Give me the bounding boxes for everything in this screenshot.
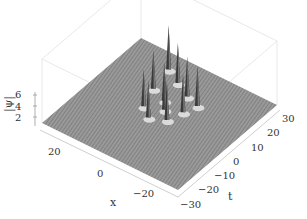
- t-tick-5: −20: [198, 184, 219, 195]
- z-tick-1: 4: [15, 101, 21, 112]
- x-tick-1: 0: [97, 168, 103, 179]
- t-tick-4: −10: [214, 170, 235, 181]
- x-tick-0: 20: [48, 146, 61, 157]
- t-axis-label: t: [228, 190, 233, 203]
- z-tick-0: 6: [15, 89, 21, 100]
- box-edge: [42, 0, 141, 59]
- t-tick-2: 10: [251, 142, 264, 153]
- surface-plot: 20 0 −20 x 30 20 10 0 −10 −20 −30 t 6 4 …: [0, 0, 307, 219]
- t-tick-1: 20: [267, 127, 280, 138]
- x-axis-label: x: [110, 196, 117, 209]
- z-tick-2: 2: [15, 112, 21, 123]
- t-tick-0: 30: [282, 113, 295, 124]
- t-tick-3: 0: [233, 156, 239, 167]
- surface-base: [42, 38, 277, 190]
- box-edge: [141, 0, 277, 41]
- t-tick-6: −30: [180, 199, 201, 210]
- x-tick-2: −20: [133, 188, 154, 199]
- z-axis-label: |ψ|: [2, 96, 16, 112]
